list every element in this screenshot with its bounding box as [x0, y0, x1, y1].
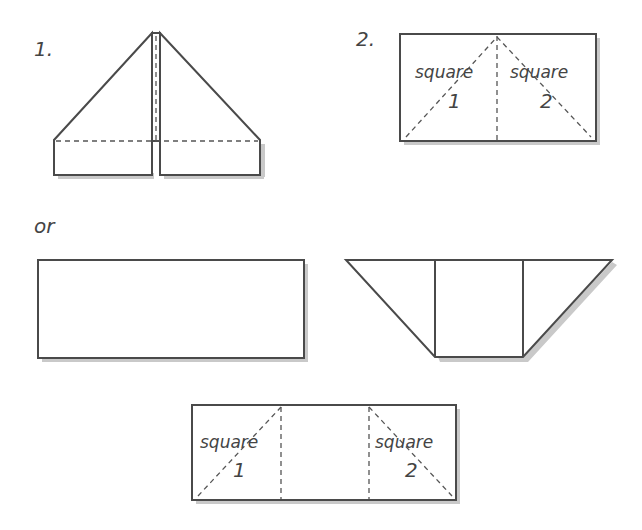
- square-1-number: 1: [448, 89, 461, 113]
- square-1-word: square: [415, 62, 473, 82]
- figure-1: 1.: [34, 33, 265, 179]
- square-2-word: square: [375, 432, 433, 452]
- square-2-number: 2: [540, 89, 553, 113]
- figure-5: square 1 square 2: [192, 405, 460, 504]
- square-1-number: 1: [233, 458, 246, 482]
- folded-rectangle: [400, 34, 596, 141]
- figure-3: [38, 260, 308, 362]
- step-1-label: 1.: [34, 37, 53, 61]
- right-flap: [160, 33, 260, 175]
- origami-instructions-diagram: 1. 2. square 1 square 2 or: [0, 0, 642, 530]
- folded-rectangle: [192, 405, 456, 500]
- step-2-label: 2.: [356, 27, 375, 51]
- plain-rectangle: [38, 260, 304, 358]
- left-flap: [54, 33, 152, 175]
- square-1-word: square: [200, 432, 258, 452]
- or-label: or: [34, 214, 56, 238]
- figure-4: [346, 260, 617, 362]
- square-2-word: square: [510, 62, 568, 82]
- square-2-number: 2: [405, 458, 418, 482]
- figure-2: 2. square 1 square 2: [356, 27, 600, 145]
